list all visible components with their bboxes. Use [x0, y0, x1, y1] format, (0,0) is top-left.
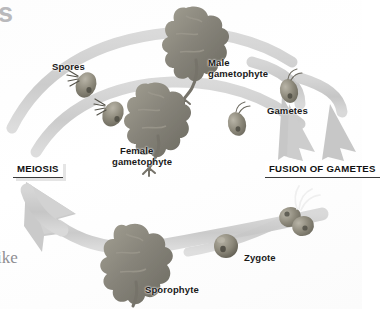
label-female-gametophyte-line1: Female: [120, 146, 153, 156]
page-bleed-left-fragment: ike: [0, 248, 18, 268]
gamete-cell-icon: [225, 102, 250, 138]
label-male-gametophyte-line2: gametophyte: [208, 69, 268, 79]
label-zygote: Zygote: [244, 253, 276, 263]
label-gametes: Gametes: [267, 106, 308, 116]
label-spores: Spores: [52, 62, 85, 72]
label-female-gametophyte-line2: gametophyte: [112, 157, 172, 167]
zygote-sphere-icon: [214, 234, 238, 258]
stage-label-fusion-of-gametes: FUSION OF GAMETES: [265, 161, 380, 178]
page-bleed-top-fragment: s: [0, 0, 13, 29]
label-sporophyte: Sporophyte: [145, 285, 199, 295]
curved-arrow-icon: [24, 182, 322, 252]
label-male-gametophyte-line1: Male: [208, 58, 230, 68]
stage-label-meiosis: MEIOSIS: [13, 161, 63, 178]
